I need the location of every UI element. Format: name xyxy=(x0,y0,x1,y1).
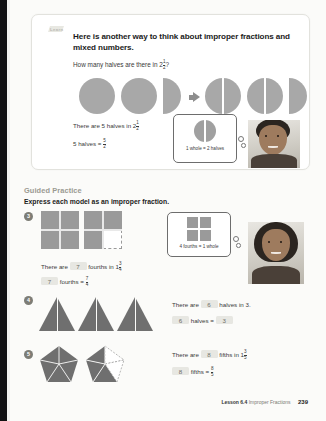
guided-practice-heading: Guided Practice xyxy=(24,186,82,195)
arrow-icon xyxy=(193,92,200,102)
learn-tab-label: Learn xyxy=(50,27,63,32)
problem-5-answer-2[interactable]: 8 xyxy=(172,367,189,375)
bubble-dot-small xyxy=(236,243,241,248)
split-circle-1 xyxy=(205,78,241,114)
problem-3-answer-2[interactable]: 7 xyxy=(41,277,58,285)
fraction-numerator: 1 xyxy=(136,121,139,126)
problem-number-4: 4 xyxy=(24,296,33,305)
page-footer: Lesson 6.4 Improper Fractions 239 xyxy=(221,399,308,405)
problem-3-result-fraction: 74 xyxy=(86,277,89,288)
footer-lesson: Lesson 6.4 xyxy=(221,399,247,405)
callout-circle-divider xyxy=(204,120,205,142)
callout-square-divider-h xyxy=(187,228,211,229)
student-photo-boy xyxy=(248,120,300,168)
learn-title: Here is another way to think about impro… xyxy=(73,31,308,53)
learn-callout-box: 1 whole = 2 halves xyxy=(173,114,237,163)
learn-callout-text: 1 whole = 2 halves xyxy=(174,146,236,151)
problem-5-result-fraction: 85 xyxy=(211,367,214,378)
problem-3-line-2: 7 fourths = 74 xyxy=(41,277,88,288)
learn-statement-2-text: 5 halves = xyxy=(73,140,101,147)
learn-statement-2-fraction: 52 xyxy=(103,139,106,150)
learn-statement-1: There are 5 halves in 212 xyxy=(73,121,139,132)
photo-body xyxy=(251,154,297,168)
problem-4-line-2: 6 halves = 3 xyxy=(172,316,233,324)
problem-3-line-1: There are 7 fourths in 134 xyxy=(41,262,121,273)
problem-5-answer-1[interactable]: 8 xyxy=(201,350,218,358)
speech-bubble-dots-2 xyxy=(233,236,241,248)
learn-statement-1-text: There are 5 halves in 2 xyxy=(73,122,136,129)
model-triangle-2 xyxy=(78,297,114,331)
model-pentagon-full xyxy=(39,345,79,383)
problem-3-line1-middle: fourths in 1 xyxy=(88,263,119,270)
fraction-numerator: 7 xyxy=(86,277,89,282)
problem-5-line-2: 8 fifths = 85 xyxy=(172,367,213,378)
fraction-denominator: 4 xyxy=(86,283,89,288)
page-binding-edge xyxy=(0,0,7,421)
model-square-three-fourths xyxy=(84,211,122,249)
photo-body xyxy=(252,266,300,284)
fraction-denominator: 2 xyxy=(103,145,106,150)
fraction-denominator: 4 xyxy=(119,268,122,273)
split-circle-2 xyxy=(247,78,283,114)
problem-3-line2-middle: fourths = xyxy=(60,278,84,285)
student-photo-girl xyxy=(248,222,304,284)
fraction-numerator: 3 xyxy=(244,350,247,355)
half-circle-2 xyxy=(289,78,325,114)
bubble-dot-large xyxy=(233,236,239,242)
problem-4-line2-middle: halves = xyxy=(191,317,214,324)
model-square-full xyxy=(41,211,79,249)
guided-practice-instruction: Express each model as an improper fracti… xyxy=(24,198,169,205)
problem-4-result[interactable]: 3 xyxy=(216,316,233,324)
problem-3-line1-prefix: There are xyxy=(41,263,68,270)
problem-number-5: 5 xyxy=(24,350,33,359)
problem-5-line1-middle: fifths in 1 xyxy=(219,351,244,358)
problem-5-mixed-fraction: 35 xyxy=(244,350,247,361)
learn-statement-2: 5 halves = 52 xyxy=(73,139,106,150)
problem-5-line1-prefix: There are xyxy=(172,351,199,358)
learn-statement-1-fraction: 12 xyxy=(136,121,139,132)
fraction-denominator: 5 xyxy=(211,373,214,378)
learn-question: How many halves are there in 212? xyxy=(73,60,169,71)
whole-circle-1 xyxy=(79,78,115,114)
problem-3-mixed-fraction: 34 xyxy=(119,262,122,273)
model-pentagon-three-fifths xyxy=(85,345,125,383)
problem-4-answer-2[interactable]: 6 xyxy=(172,316,189,324)
textbook-page: Learn Here is another way to think about… xyxy=(0,0,326,421)
problem-4-answer-1[interactable]: 6 xyxy=(201,300,218,308)
learn-question-text: How many halves are there in 2 xyxy=(73,61,163,68)
problem-4-line1-prefix: There are xyxy=(172,301,199,308)
page-binding-inner xyxy=(7,0,10,421)
learn-circle-models xyxy=(79,75,314,117)
photo-mouth xyxy=(271,252,281,254)
bubble-dot-large xyxy=(238,136,244,142)
speech-bubble-dots-1 xyxy=(238,136,246,148)
whole-circle-2 xyxy=(121,78,157,114)
fraction-numerator: 5 xyxy=(103,139,106,144)
problem-4-line1-middle: halves in 3. xyxy=(219,301,250,308)
footer-page-number: 239 xyxy=(298,399,308,405)
model-triangle-1 xyxy=(39,297,75,331)
model-triangle-3 xyxy=(117,297,153,331)
problem-3-answer-1[interactable]: 7 xyxy=(70,262,87,270)
photo-mouth xyxy=(268,146,278,148)
fraction-denominator: 5 xyxy=(244,356,247,361)
fraction-numerator: 8 xyxy=(211,367,214,372)
footer-topic: Improper Fractions xyxy=(249,399,291,405)
fraction-numerator: 3 xyxy=(119,262,122,267)
bubble-dot-small xyxy=(241,143,246,148)
problem-5-line-1: There are 8 fifths in 135 xyxy=(172,350,247,361)
problem-5-line2-middle: fifths = xyxy=(191,368,209,375)
guided-practice-callout-text: 4 fourths = 1 whole xyxy=(168,244,230,249)
learn-question-suffix: ? xyxy=(165,61,169,68)
fraction-denominator: 2 xyxy=(136,127,139,132)
problem-number-3: 3 xyxy=(24,212,33,221)
problem-4-line-1: There are 6 halves in 3. xyxy=(172,300,251,308)
guided-practice-callout-box: 4 fourths = 1 whole xyxy=(167,212,231,257)
